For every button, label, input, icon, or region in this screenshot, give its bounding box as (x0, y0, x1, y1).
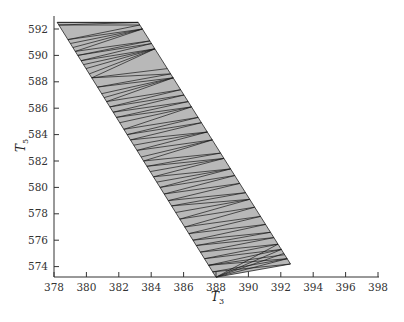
x-tick-label: 392 (271, 281, 291, 293)
x-tick-label: 394 (303, 281, 323, 293)
y-tick-label: 584 (28, 128, 48, 140)
y-tick-label: 578 (28, 207, 48, 219)
x-tick-label: 390 (238, 281, 258, 293)
y-tick-label: 590 (28, 49, 48, 61)
y-tick-label: 592 (28, 23, 48, 35)
x-tick-label: 396 (336, 281, 356, 293)
x-tick-label: 386 (174, 281, 194, 293)
y-tick-label: 576 (28, 234, 48, 246)
y-tick-label: 588 (28, 75, 48, 87)
y-tick-label: 582 (28, 155, 48, 167)
y-tick-label: 586 (28, 102, 48, 114)
y-tick-label: 574 (28, 260, 48, 272)
y-axis-label: T5 (14, 139, 30, 152)
feasible-region (57, 22, 290, 277)
x-tick-label: 384 (141, 281, 161, 293)
x-tick-label: 380 (76, 281, 96, 293)
plot-region (57, 22, 290, 277)
x-tick-label: 382 (109, 281, 129, 293)
y-tick-label: 580 (28, 181, 48, 193)
x-tick-label: 378 (44, 281, 64, 293)
chart-canvas: 378380382384386388390392394396398 574576… (0, 0, 404, 322)
x-tick-label: 398 (368, 281, 388, 293)
